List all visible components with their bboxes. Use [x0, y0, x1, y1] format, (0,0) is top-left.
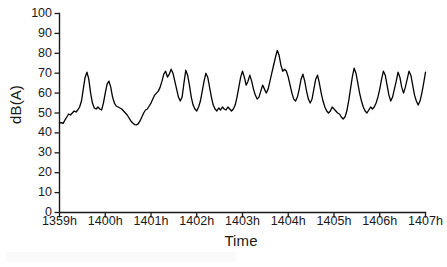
axis-lines: [60, 14, 426, 213]
x-tick-marks: [60, 213, 426, 218]
y-tick-marks: [55, 14, 60, 213]
data-line-sound-pressure-level: [60, 50, 426, 125]
axis-spines: [55, 14, 426, 218]
